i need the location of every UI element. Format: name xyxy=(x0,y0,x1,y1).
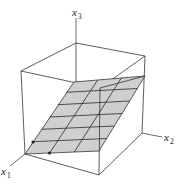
x1-label: x 1 xyxy=(0,165,11,180)
svg-text:3: 3 xyxy=(78,12,82,21)
svg-text:x: x xyxy=(163,131,169,143)
svg-text:x: x xyxy=(0,165,6,177)
point-marker xyxy=(31,140,34,143)
point-marker xyxy=(48,151,51,154)
x3-label: x 3 xyxy=(71,6,82,21)
svg-text:x: x xyxy=(71,6,77,18)
svg-text:1: 1 xyxy=(7,171,11,180)
svg-text:2: 2 xyxy=(170,137,174,146)
x2-axis xyxy=(142,133,162,137)
plane-in-box-figure: x 3 x 2 x 1 xyxy=(0,0,177,190)
shaded-plane xyxy=(25,76,145,154)
x2-label: x 2 xyxy=(163,131,174,146)
x1-axis xyxy=(10,154,25,166)
